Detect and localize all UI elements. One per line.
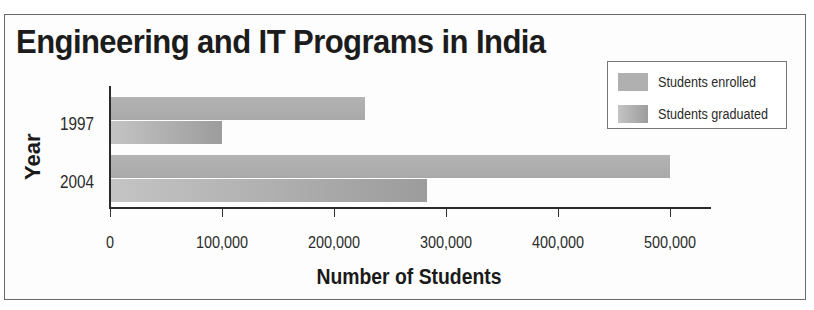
x-axis: [109, 207, 711, 209]
y-axis: [109, 86, 111, 209]
x-tick: [334, 209, 335, 217]
x-tick: [222, 209, 223, 217]
bar-1997-graduated: [110, 121, 222, 144]
legend-swatch-graduated: [618, 105, 648, 123]
chart-title: Engineering and IT Programs in India: [16, 23, 546, 61]
legend-item-graduated: Students graduated: [618, 105, 780, 123]
bar-1997-enrolled: [110, 97, 365, 120]
y-axis-label: Year: [20, 134, 46, 181]
x-tick: [110, 209, 111, 217]
x-tick-label: 0: [106, 233, 114, 253]
x-tick: [670, 209, 671, 217]
legend-swatch-enrolled: [618, 73, 648, 91]
x-tick-label: 500,000: [644, 233, 696, 253]
category-label-2004: 2004: [60, 172, 94, 193]
x-tick-label: 300,000: [420, 233, 472, 253]
legend-label-graduated: Students graduated: [658, 106, 768, 122]
x-axis-label: Number of Students: [316, 264, 501, 290]
legend: Students enrolled Students graduated: [607, 61, 787, 129]
legend-label-enrolled: Students enrolled: [658, 74, 756, 90]
x-tick: [446, 209, 447, 217]
bar-2004-graduated: [110, 179, 427, 202]
category-label-1997: 1997: [60, 114, 94, 135]
x-tick-label: 400,000: [532, 233, 584, 253]
x-tick-label: 200,000: [308, 233, 360, 253]
x-tick-label: 100,000: [196, 233, 248, 253]
x-tick: [558, 209, 559, 217]
legend-item-enrolled: Students enrolled: [618, 73, 767, 91]
bar-2004-enrolled: [110, 155, 670, 178]
